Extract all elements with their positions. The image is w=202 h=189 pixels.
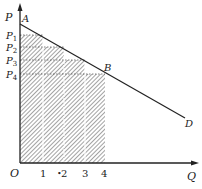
x-axis-arrow-icon — [191, 161, 199, 166]
y-axis-label: P — [4, 11, 13, 24]
x-axis-label: Q — [187, 170, 196, 183]
price-label-p2: P2 — [5, 42, 17, 55]
point-b-label: B — [103, 62, 111, 73]
bar-2 — [43, 47, 64, 163]
origin-label: O — [10, 167, 19, 180]
bar-1 — [20, 35, 43, 163]
q-tick-4: 4 — [101, 168, 107, 179]
bar-4 — [85, 74, 105, 163]
price-label-p4: P4 — [5, 69, 18, 82]
surplus-bars — [20, 35, 105, 163]
q-tick-2: 2 — [61, 168, 67, 179]
price-label-p3: P3 — [5, 55, 17, 68]
demand-diagram: P Q O P1 P2 P3 P4 1 • 2 3 4 A B D — [0, 0, 202, 189]
q-tick-1: 1 — [40, 168, 46, 179]
bar-3 — [64, 60, 85, 163]
y-axis-arrow-icon — [18, 3, 23, 11]
point-d-label: D — [184, 118, 193, 129]
point-a-label: A — [21, 13, 29, 24]
q-tick-3: 3 — [82, 168, 88, 179]
